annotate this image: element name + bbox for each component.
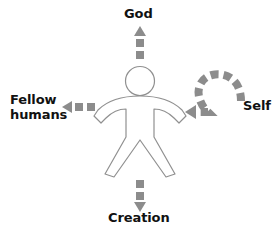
- label-fellow-humans: Fellowhumans: [10, 92, 67, 123]
- arrow-up-to-god: [134, 26, 146, 59]
- label-fellow-humans-line1: Fellow: [10, 92, 56, 107]
- arrowhead-up-icon: [134, 26, 146, 36]
- label-god: God: [124, 6, 153, 21]
- diagram-canvas: God Self Creation Fellowhumans: [0, 0, 280, 240]
- arrow-dash: [136, 51, 144, 59]
- human-figure: [94, 67, 186, 178]
- arrow-dash: [136, 180, 144, 188]
- arrow-dash: [136, 39, 144, 47]
- figure-body-icon: [94, 96, 186, 177]
- figure-head-icon: [126, 67, 155, 96]
- arrow-dash: [75, 103, 83, 111]
- arrow-curved-from-self: [185, 74, 241, 119]
- arrow-dash: [87, 103, 95, 111]
- label-creation: Creation: [108, 210, 170, 225]
- label-fellow-humans-line2: humans: [10, 107, 67, 122]
- label-self: Self: [243, 98, 271, 113]
- arrowhead-curved-left-icon: [185, 105, 196, 119]
- arrow-dash: [136, 192, 144, 200]
- arrow-down-to-creation: [134, 180, 146, 212]
- arrow-curve-dashes: [196, 74, 241, 112]
